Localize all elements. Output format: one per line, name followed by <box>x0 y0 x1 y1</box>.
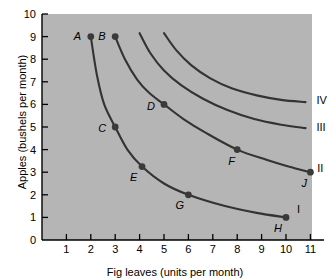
x-axis-title-wrapper: Fig leaves (units per month) <box>40 262 310 280</box>
data-point-A <box>87 33 94 40</box>
x-tick-label: 9 <box>254 244 270 255</box>
x-tick-label: 5 <box>156 244 172 255</box>
plot-area-svg <box>0 0 331 280</box>
y-axis-title-wrapper: Apples (bushels per month) <box>12 47 30 197</box>
x-tick-label: 4 <box>132 244 148 255</box>
data-point-F <box>234 146 241 153</box>
point-label-F: F <box>228 156 235 167</box>
data-point-B <box>112 33 119 40</box>
point-label-A: A <box>74 31 81 42</box>
y-tick-label: 0 <box>22 235 36 246</box>
data-point-E <box>139 163 146 170</box>
y-tick-label: 9 <box>22 32 36 43</box>
data-point-C <box>112 124 119 131</box>
x-tick-label: 3 <box>107 244 123 255</box>
point-label-D: D <box>147 101 155 112</box>
point-label-B: B <box>98 31 105 42</box>
y-tick-label: 10 <box>22 9 36 20</box>
curve-label-II: II <box>317 163 323 174</box>
data-point-J <box>307 169 314 176</box>
point-label-J: J <box>301 178 307 189</box>
indifference-curve-chart: 012345678910 1234567891011 ABCDEFGHJ III… <box>0 0 331 280</box>
x-tick-label: 1 <box>58 244 74 255</box>
point-label-G: G <box>175 200 184 211</box>
x-tick-label: 2 <box>83 244 99 255</box>
x-tick-label: 7 <box>205 244 221 255</box>
x-tick-label: 8 <box>229 244 245 255</box>
data-point-H <box>283 214 290 221</box>
point-label-C: C <box>98 123 106 134</box>
x-axis-title: Fig leaves (units per month) <box>107 266 243 278</box>
curve-label-III: III <box>317 122 326 133</box>
curve-label-I: I <box>297 204 300 215</box>
x-tick-label: 6 <box>180 244 196 255</box>
curve-label-IV: IV <box>317 95 327 106</box>
data-point-G <box>185 191 192 198</box>
x-tick-label: 11 <box>302 244 318 255</box>
data-point-D <box>161 101 168 108</box>
point-label-E: E <box>130 172 137 183</box>
y-axis-title: Apples (bushels per month) <box>16 55 28 190</box>
point-label-H: H <box>274 223 282 234</box>
y-tick-label: 1 <box>22 212 36 223</box>
x-tick-label: 10 <box>278 244 294 255</box>
